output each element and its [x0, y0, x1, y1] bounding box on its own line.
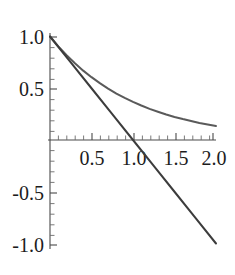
- x-tick-label-1-5: 1.5: [164, 147, 189, 169]
- y-tick-labels: 1.0 0.5 -0.5 -1.0: [12, 26, 44, 256]
- chart-canvas: 1.0 0.5 -0.5 -1.0 0.5 1.0 1.5 2.0: [0, 0, 235, 275]
- x-tick-label-0-5: 0.5: [80, 147, 105, 169]
- y-tick-label-neg-1-0: -1.0: [12, 234, 44, 256]
- x-axis-major-ticks: [92, 133, 213, 140]
- y-axis-minor-ticks: [50, 48, 55, 236]
- y-tick-label-1-0: 1.0: [19, 26, 44, 48]
- series-exponential-decay: [50, 37, 216, 127]
- chart-figure: 1.0 0.5 -0.5 -1.0 0.5 1.0 1.5 2.0: [0, 0, 235, 275]
- y-tick-label-0-5: 0.5: [19, 78, 44, 100]
- x-tick-label-1-0: 1.0: [122, 147, 147, 169]
- y-tick-label-neg-0-5: -0.5: [12, 182, 44, 204]
- x-tick-label-2-0: 2.0: [202, 147, 227, 169]
